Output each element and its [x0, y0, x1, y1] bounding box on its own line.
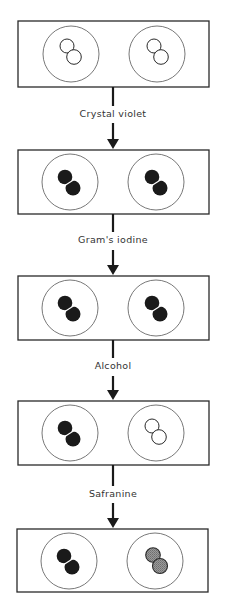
step-arrow-2: Gram's iodine — [78, 214, 148, 275]
stage-0-slide — [18, 21, 209, 87]
step-arrow-3: Alcohol — [95, 340, 132, 400]
step-arrow-1: Crystal violet — [80, 87, 147, 149]
arrowhead-icon — [107, 265, 119, 275]
reagent-label-grams-iodine: Gram's iodine — [78, 234, 148, 245]
stage-4-slide — [17, 529, 208, 592]
reagent-label-crystal-violet: Crystal violet — [80, 108, 147, 119]
arrowhead-icon — [107, 139, 119, 149]
reagent-label-safranine: Safranine — [89, 488, 137, 499]
stage-2-slide — [18, 276, 209, 340]
stage-1-slide — [18, 150, 209, 214]
arrowhead-icon — [107, 390, 119, 400]
arrowhead-icon — [107, 518, 119, 528]
stage-3-slide — [18, 401, 209, 465]
gram-stain-diagram: Crystal violet Gram's iodine — [0, 0, 228, 607]
reagent-label-alcohol: Alcohol — [95, 360, 132, 371]
step-arrow-4: Safranine — [89, 465, 137, 528]
